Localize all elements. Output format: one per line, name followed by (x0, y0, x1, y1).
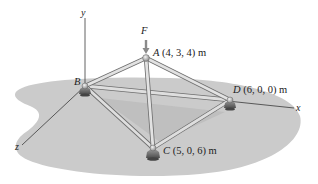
z-axis-label: z (15, 142, 19, 152)
joint-C-coords: (5, 0, 6) m (173, 145, 217, 156)
joint-D-coords: (6, 0, 0) m (243, 84, 287, 95)
joint-A (143, 55, 150, 62)
joint-B-label: B (74, 77, 80, 88)
y-axis-label: y (81, 8, 85, 18)
x-axis-label: x (296, 103, 300, 113)
joint-C (150, 145, 156, 151)
joint-D-name: D (233, 84, 241, 95)
joint-C-label: C (5, 0, 6) m (163, 146, 217, 157)
joint-A-label: A (4, 3, 4) m (153, 48, 206, 59)
joint-D-label: D (6, 0, 0) m (233, 85, 287, 96)
force-label: F (141, 26, 147, 37)
joint-D (227, 97, 233, 103)
joint-A-name: A (153, 47, 159, 58)
joint-A-coords: (4, 3, 4) m (162, 47, 206, 58)
joint-C-name: C (163, 145, 170, 156)
joint-B-name: B (74, 76, 80, 87)
force-symbol: F (141, 25, 147, 36)
space-truss-figure: y x z F A (4, 3, 4) m B D (6, 0, 0) m C … (0, 0, 318, 184)
force-arrow-icon (143, 40, 150, 54)
joint-B (82, 83, 88, 89)
